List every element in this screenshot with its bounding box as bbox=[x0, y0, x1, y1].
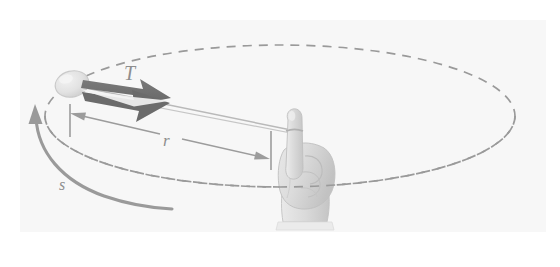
finger-highlight bbox=[289, 111, 296, 121]
string bbox=[76, 86, 296, 134]
tension-vector-arrow bbox=[81, 79, 171, 122]
figure-root: T r s bbox=[0, 0, 560, 267]
tension-label: T bbox=[124, 62, 137, 84]
radius-label: r bbox=[163, 131, 170, 150]
radius-right-arrowhead bbox=[254, 152, 270, 160]
radius-dimension-line bbox=[70, 104, 271, 170]
arc-label: s bbox=[59, 176, 65, 193]
hand-base-shadow bbox=[276, 222, 334, 230]
radius-left-arrowhead bbox=[70, 113, 86, 121]
physics-diagram: T r s bbox=[0, 0, 560, 267]
hand-holding-string bbox=[276, 109, 335, 230]
